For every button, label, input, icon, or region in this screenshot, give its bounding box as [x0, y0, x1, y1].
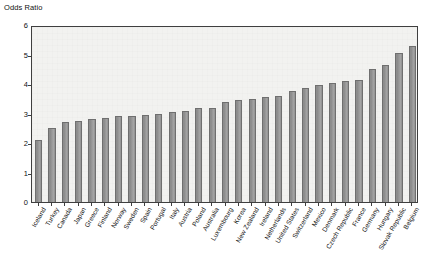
x-axis-labels: IcelandTurkeyCanadaJapanGreeceFinlandNor… — [31, 206, 418, 272]
bar — [382, 65, 389, 202]
bar — [222, 102, 229, 202]
bar — [48, 128, 55, 202]
bar — [249, 99, 256, 202]
bar — [235, 100, 242, 202]
bar — [209, 108, 216, 202]
bar — [169, 112, 176, 202]
bar — [128, 116, 135, 202]
y-tick-mark — [28, 144, 32, 145]
bar — [182, 111, 189, 202]
y-tick-mark — [28, 85, 32, 86]
bar — [155, 114, 162, 203]
plot-area — [31, 26, 418, 203]
bar — [262, 97, 269, 202]
bar — [142, 115, 149, 202]
x-axis-label: Iceland — [30, 206, 47, 228]
bar — [355, 80, 362, 202]
bar — [75, 121, 82, 202]
y-tick-mark — [28, 174, 32, 175]
bar — [115, 116, 122, 202]
bar — [62, 122, 69, 202]
bar — [88, 119, 95, 202]
y-tick-label: 0 — [24, 199, 28, 207]
bar — [315, 85, 322, 202]
odds-ratio-bar-chart: Odds Ratio 0123456 IcelandTurkeyCanadaJa… — [0, 0, 427, 275]
bar — [409, 46, 416, 202]
x-axis-label: Italy — [168, 206, 180, 220]
y-tick-label: 6 — [24, 22, 28, 30]
bar — [102, 118, 109, 202]
y-axis-title: Odds Ratio — [4, 3, 43, 12]
bars-layer — [32, 27, 417, 202]
bar — [395, 53, 402, 202]
y-tick-mark — [28, 56, 32, 57]
bar — [329, 83, 336, 202]
bar — [302, 88, 309, 202]
bar — [342, 81, 349, 202]
y-tick-mark — [28, 115, 32, 116]
bar — [195, 108, 202, 202]
bar — [275, 96, 282, 202]
bar — [35, 140, 42, 202]
bar — [289, 91, 296, 202]
bar — [369, 69, 376, 202]
